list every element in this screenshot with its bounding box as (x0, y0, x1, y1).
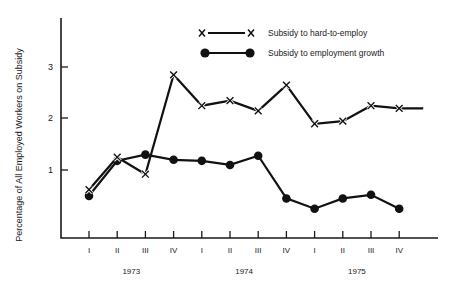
data-point-5 (226, 161, 235, 170)
y-tick-label-2: 2 (48, 113, 53, 123)
chart-legend: Subsidy to hard-to-employ Subsidy to emp… (199, 28, 384, 58)
legend-marker-x-left (199, 30, 205, 37)
data-point-4 (198, 157, 207, 166)
x-axis-tick-labels: IIIIIIIVIIIIIIIVIIIIIIIV (88, 246, 404, 255)
data-point-7 (283, 82, 290, 89)
data-point-6 (254, 151, 263, 160)
series-subsidy-to-hard-to-employ (86, 71, 424, 193)
series-path (89, 155, 399, 209)
year-label-1975: 1975 (348, 267, 366, 276)
y-tick-label-3: 3 (48, 62, 53, 72)
x-tick-label-9: II (341, 246, 345, 255)
legend-item-employment-growth: Subsidy to employment growth (200, 48, 384, 58)
x-tick-label-5: II (228, 246, 232, 255)
data-point-3 (169, 156, 178, 165)
x-tick-label-3: IV (170, 246, 178, 255)
data-point-10 (367, 191, 376, 200)
y-tick-label-1: 1 (48, 165, 53, 175)
data-point-8 (310, 204, 319, 213)
legend-marker-dot-left (200, 48, 209, 57)
x-tick-label-2: III (142, 246, 149, 255)
series-subsidy-to-employment-growth (85, 150, 404, 213)
data-point-2 (141, 150, 150, 159)
data-point-7 (282, 194, 291, 203)
x-axis-ticks (89, 231, 399, 238)
x-tick-label-10: III (368, 246, 375, 255)
x-tick-label-7: IV (283, 246, 291, 255)
legend-label-hard-to-employ: Subsidy to hard-to-employ (268, 28, 368, 38)
legend-marker-dot-right (245, 48, 254, 57)
x-tick-label-1: II (115, 246, 119, 255)
y-axis-title-text: Percentage of All Employed Workers on Su… (14, 48, 24, 242)
y-axis-title: Percentage of All Employed Workers on Su… (14, 48, 24, 242)
x-tick-label-6: III (255, 246, 262, 255)
year-label-1974: 1974 (235, 267, 253, 276)
x-tick-label-11: IV (395, 246, 403, 255)
data-point-11 (395, 204, 404, 213)
chart-figure: Percentage of All Employed Workers on Su… (0, 0, 450, 290)
line-chart-canvas: Percentage of All Employed Workers on Su… (0, 0, 450, 290)
legend-label-employment-growth: Subsidy to employment growth (268, 48, 384, 58)
x-tick-label-0: I (88, 246, 90, 255)
legend-marker-x-right (248, 30, 254, 37)
x-tick-label-4: I (201, 246, 203, 255)
x-axis-year-labels: 197319741975 (122, 267, 366, 276)
data-point-9 (339, 194, 348, 203)
year-label-1973: 1973 (122, 267, 140, 276)
legend-item-hard-to-employ: Subsidy to hard-to-employ (199, 28, 368, 38)
x-tick-label-8: I (313, 246, 315, 255)
series-path (89, 75, 423, 190)
y-axis-ticks: 3 2 1 (48, 62, 68, 175)
